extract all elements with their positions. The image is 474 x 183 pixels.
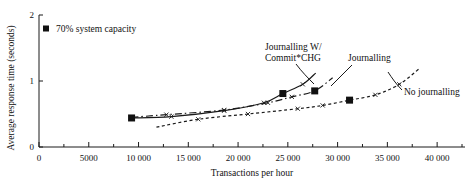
x-tick-label: 5000: [80, 153, 99, 163]
response-time-line-chart: 012 0500010 00015 00020 00025 00030 0003…: [0, 0, 474, 183]
series-label-journalling-commit-line2: Commit*CHG: [265, 53, 321, 63]
capacity-marker: [128, 114, 135, 121]
chart-container: 012 0500010 00015 00020 00025 00030 0003…: [0, 0, 474, 183]
y-axis-title: Average response time (seconds): [6, 25, 17, 150]
x-axis-ticks: [39, 142, 462, 147]
data-point-marker: [301, 82, 305, 86]
series-lines: [132, 68, 421, 127]
series-point-markers: [164, 82, 401, 121]
x-tick-label: 25 000: [275, 153, 300, 163]
x-tick-label: 30 000: [325, 153, 350, 163]
y-tick-label: 1: [30, 76, 35, 86]
label-leader-0: [296, 64, 314, 84]
y-axis-ticks: [39, 15, 43, 147]
capacity-marker: [279, 90, 286, 97]
x-tick-label: 35 000: [375, 153, 400, 163]
x-tick-label: 10 000: [126, 153, 151, 163]
legend: 70% system capacity: [43, 24, 136, 34]
legend-marker-square: [43, 26, 49, 32]
x-tick-label: 15 000: [176, 153, 201, 163]
label-leader-1: [331, 65, 352, 86]
x-axis-title: Transactions per hour: [211, 168, 294, 178]
capacity-markers: [128, 87, 353, 121]
x-tick-label: 40 000: [425, 153, 450, 163]
x-axis-tick-labels: 0500010 00015 00020 00025 00030 00035 00…: [37, 153, 450, 163]
capacity-marker: [346, 97, 353, 104]
series-label-no-journalling: No journalling: [404, 87, 460, 97]
series-label-journalling: Journalling: [348, 53, 391, 63]
x-tick-label: 0: [37, 153, 42, 163]
y-tick-label: 0: [30, 142, 35, 152]
x-tick-label: 20 000: [226, 153, 251, 163]
series-line-2: [156, 68, 420, 127]
series-label-journalling-commit-line1: Journalling W/: [265, 42, 322, 52]
y-tick-label: 2: [30, 10, 35, 20]
y-axis-tick-labels: 012: [30, 10, 35, 152]
capacity-marker: [311, 87, 318, 94]
legend-label: 70% system capacity: [56, 24, 136, 34]
